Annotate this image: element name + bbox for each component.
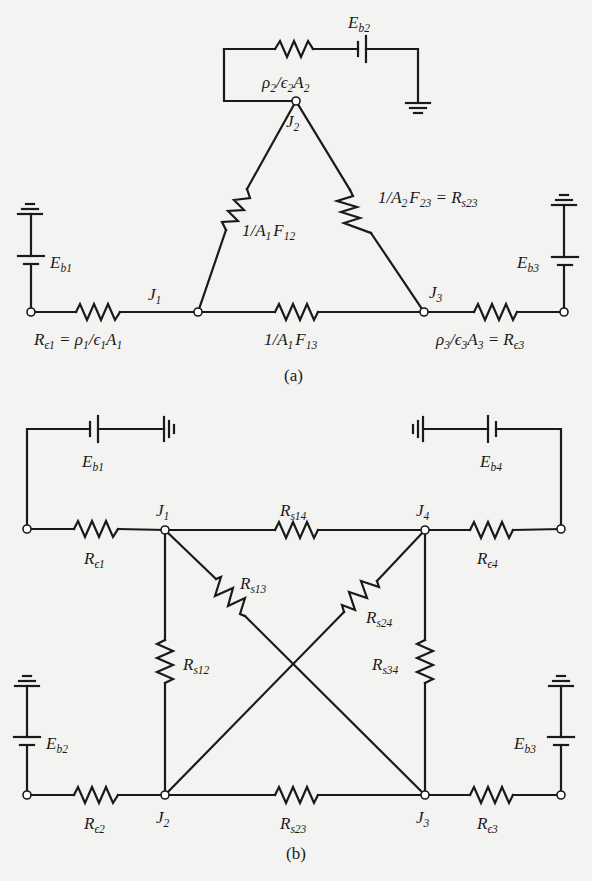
diagram-a: Eb2 ρ2/ϵ2A2 [18, 13, 578, 385]
junction-node-j3 [420, 308, 428, 316]
resistor-label-rs23: Rs23 [279, 814, 307, 835]
junction-node-j2 [292, 97, 300, 105]
battery-label-eb3: Eb3 [513, 734, 536, 755]
resistor-label-rs34: Rs34 [371, 655, 399, 676]
battery-label-eb4: Eb4 [479, 452, 502, 473]
node-label-j3: J3 [429, 283, 443, 304]
resistor-zigzag-icon [275, 787, 318, 803]
terminal-node-right [560, 308, 568, 316]
battery-label-eb3: Eb3 [516, 253, 539, 274]
resistor-label-rs14: Rs14 [279, 501, 307, 522]
junction-node-j1 [161, 526, 169, 534]
junction-node-j1 [194, 308, 202, 316]
branch-j1-j3 [198, 304, 424, 320]
node-label-j1: J1 [156, 501, 169, 522]
resistor-label-re3: Rϵ3 [476, 814, 498, 835]
diagram-b: Eb1 Eb4 [14, 416, 574, 863]
resistor-label-re1: Rϵ1 [83, 549, 105, 570]
junction-node-j4 [421, 526, 429, 534]
resistor-label-r12: 1/A1F12 [242, 221, 296, 242]
resistor-label-re4: Rϵ4 [476, 549, 498, 570]
resistor-zigzag-icon [474, 304, 517, 320]
resistor-label-surface1: Rϵ1 = ρ1/ϵ1A1 [33, 330, 122, 351]
node-label-j3: J3 [416, 808, 430, 829]
branch-j4-j3 [417, 530, 433, 795]
resistor-zigzag-icon [470, 787, 513, 803]
node-label-j2: J2 [286, 112, 300, 133]
ground-icon [406, 103, 430, 113]
resistor-zigzag-icon [275, 304, 318, 320]
resistor-zigzag-icon [74, 521, 118, 537]
surface-resistor-3-branch [425, 676, 574, 803]
resistor-zigzag-icon [417, 640, 433, 683]
junction-node-j2 [161, 791, 169, 799]
surface-resistor-1-branch [18, 204, 198, 320]
battery-label-eb1: Eb1 [81, 452, 104, 473]
branch-j1-j4 [165, 522, 425, 538]
resistor-label-rs12: Rs12 [182, 655, 210, 676]
branch-j2-j3 [165, 787, 425, 803]
resistor-label-rs13: Rs13 [239, 574, 267, 595]
surface-resistor-2-branch [224, 36, 430, 113]
ground-icon [549, 676, 573, 686]
resistor-label-surface2: ρ2/ϵ2A2 [261, 73, 310, 94]
junction-node-j3 [421, 791, 429, 799]
branch-j1-j2 [157, 530, 173, 795]
node-label-j4: J4 [416, 501, 430, 522]
resistor-label-rs24: Rs24 [365, 608, 393, 629]
battery-label-eb1: Eb1 [49, 253, 72, 274]
resistor-label-re2: Rϵ2 [83, 814, 105, 835]
node-label-j2: J2 [156, 808, 170, 829]
terminal-node-bottom-left [23, 791, 31, 799]
surface-resistor-2-branch [14, 676, 165, 803]
resistor-zigzag-icon [74, 787, 118, 803]
resistor-zigzag-icon [337, 190, 371, 233]
ground-icon [18, 204, 42, 214]
resistor-label-r13: 1/A1F13 [264, 330, 318, 351]
resistor-label-surface3: ρ3/ϵ3A3 = Rϵ3 [435, 330, 524, 351]
resistor-zigzag-icon [470, 522, 513, 538]
resistor-label-r23: 1/A2F23 = Rs23 [378, 188, 478, 209]
ground-icon [15, 676, 39, 686]
branch-j1-j2 [198, 101, 296, 312]
battery-label-eb2: Eb2 [45, 734, 68, 755]
ground-icon [164, 417, 174, 441]
resistor-zigzag-icon [76, 304, 120, 320]
node-label-j1: J1 [148, 285, 161, 306]
ground-icon [413, 417, 423, 441]
resistor-zigzag-icon [275, 522, 318, 538]
terminal-node-top-right [557, 525, 565, 533]
terminal-node-bottom-right [557, 791, 565, 799]
terminal-node-left [27, 308, 35, 316]
resistor-zigzag-icon [157, 640, 173, 683]
caption-b: (b) [286, 844, 306, 863]
caption-a: (a) [284, 366, 303, 385]
terminal-node-top-left [23, 525, 31, 533]
resistor-zigzag-icon [275, 41, 313, 57]
ground-icon [552, 195, 576, 205]
battery-label-eb2: Eb2 [347, 13, 370, 34]
surface-resistor-3-branch [424, 195, 578, 320]
surface-resistor-1-branch [27, 416, 174, 537]
surface-resistor-4-branch [413, 416, 561, 538]
